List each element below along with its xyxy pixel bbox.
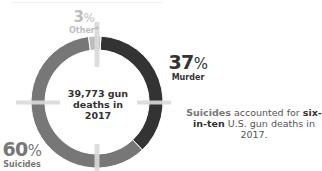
murder-category: Murder — [164, 74, 212, 82]
annotation: Suicides accounted for six-in-ten U.S. g… — [186, 107, 322, 140]
other-percent: 3 — [74, 8, 84, 26]
crosshair-bottom — [95, 144, 100, 171]
label-suicides: 60% Suicides — [2, 140, 42, 169]
center-label: 39,773 gun deaths in 2017 — [67, 88, 129, 121]
crosshair-right — [137, 101, 171, 105]
suicides-category: Suicides — [2, 161, 42, 169]
crosshair-left — [16, 101, 60, 105]
other-category: Other* — [64, 27, 104, 35]
label-other: 3% Other* — [64, 10, 104, 35]
label-murder: 37% Murder — [164, 53, 212, 82]
donut-chart — [0, 0, 322, 171]
murder-percent: 37 — [168, 51, 193, 73]
suicides-percent: 60 — [2, 138, 27, 160]
